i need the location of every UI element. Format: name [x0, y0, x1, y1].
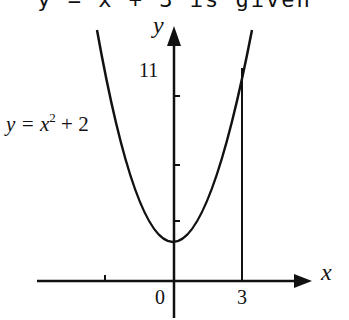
x-tick-label-0: 0 — [155, 287, 165, 307]
x-axis-arrow-icon — [294, 274, 312, 288]
y-axis-arrow-icon — [167, 26, 181, 46]
equation-suffix: + 2 — [56, 112, 89, 136]
equation-prefix: y = x — [6, 112, 49, 136]
parabola-graph — [0, 0, 349, 320]
y-axis-label: y — [153, 13, 164, 37]
y-tick-label-11: 11 — [139, 60, 158, 80]
equation-label: y = x2 + 2 — [6, 111, 89, 135]
x-tick-label-3: 3 — [237, 287, 247, 307]
x-axis-label: x — [321, 260, 332, 284]
